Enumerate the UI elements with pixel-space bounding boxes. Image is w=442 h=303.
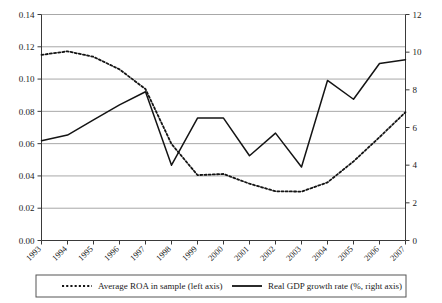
x-axis-tick-label: 2000 (206, 244, 225, 263)
left-axis-tick-label: 0.00 (19, 236, 35, 246)
line-chart: 0.000.020.040.060.080.100.120.14 0246810… (0, 0, 442, 303)
right-axis-tick-label: 8 (413, 85, 418, 95)
x-axis-tick-label: 2002 (258, 244, 277, 263)
x-axis-tick-label: 1994 (50, 243, 70, 263)
x-axis-tick-label: 2001 (232, 244, 251, 263)
x-axis: 1993199419951996199719981999200020012002… (24, 241, 407, 263)
chart-legend: Average ROA in sample (left axis)Real GD… (36, 275, 406, 297)
legend-label: Average ROA in sample (left axis) (98, 281, 223, 291)
left-axis: 0.000.020.040.060.080.100.120.14 (19, 10, 42, 246)
right-axis-tick-label: 0 (413, 236, 418, 246)
chart-container: 0.000.020.040.060.080.100.120.14 0246810… (0, 0, 442, 303)
left-axis-tick-label: 0.12 (19, 42, 35, 52)
x-axis-tick-label: 2003 (284, 244, 303, 263)
right-axis-tick-label: 10 (413, 47, 423, 57)
right-axis-tick-label: 4 (413, 160, 418, 170)
x-axis-tick-label: 1993 (24, 244, 43, 263)
x-axis-tick-label: 2007 (388, 244, 407, 263)
right-axis-tick-label: 2 (413, 198, 418, 208)
gridlines (42, 15, 406, 241)
left-axis-tick-label: 0.14 (19, 10, 35, 20)
x-axis-tick-label: 2005 (336, 244, 355, 263)
x-axis-tick-label: 1996 (102, 244, 121, 263)
left-axis-tick-label: 0.10 (19, 74, 35, 84)
series-line-average-roa (42, 51, 406, 191)
series-line-real-gdp-growth (42, 60, 406, 167)
right-axis-tick-label: 6 (413, 123, 418, 133)
right-axis: 024681012 (406, 10, 423, 246)
x-axis-tick-label: 2006 (362, 244, 381, 263)
left-axis-tick-label: 0.06 (19, 139, 35, 149)
left-axis-tick-label: 0.02 (19, 203, 35, 213)
left-axis-tick-label: 0.04 (19, 171, 35, 181)
x-axis-tick-label: 1995 (76, 244, 95, 263)
legend-label: Real GDP growth rate (%, right axis) (268, 281, 402, 291)
left-axis-tick-label: 0.08 (19, 107, 35, 117)
x-axis-tick-label: 1998 (154, 244, 173, 263)
x-axis-tick-label: 1999 (180, 244, 199, 263)
x-axis-tick-label: 2004 (310, 243, 330, 263)
series-layer (42, 51, 406, 191)
x-axis-tick-label: 1997 (128, 244, 147, 263)
right-axis-tick-label: 12 (413, 10, 422, 20)
